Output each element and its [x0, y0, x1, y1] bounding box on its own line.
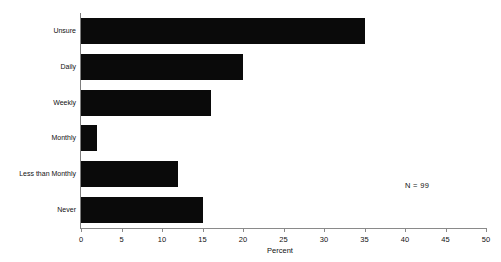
bar-never — [81, 197, 203, 223]
category-label-weekly: Weekly — [0, 98, 76, 107]
category-axis-labels: UnsureDailyWeeklyMonthlyLess than Monthl… — [0, 13, 76, 228]
x-axis-title-text: Percent — [267, 246, 293, 255]
x-tick-label-20: 20 — [228, 235, 258, 245]
x-tick-mark-15 — [203, 228, 204, 232]
x-tick-label-40: 40 — [390, 235, 420, 245]
category-label-less-than-monthly: Less than Monthly — [0, 169, 76, 178]
x-tick-mark-50 — [486, 228, 487, 232]
category-label-daily: Daily — [0, 62, 76, 71]
x-tick-mark-25 — [284, 228, 285, 232]
sample-size-annotation: N = 99 — [405, 181, 429, 190]
x-tick-label-45: 45 — [431, 235, 461, 245]
x-tick-label-30: 30 — [309, 235, 339, 245]
x-tick-mark-45 — [446, 228, 447, 232]
x-tick-label-50: 50 — [471, 235, 501, 245]
x-tick-label-10: 10 — [147, 235, 177, 245]
x-axis-title: Percent — [0, 246, 501, 255]
bar-row — [81, 197, 486, 223]
bar-row — [81, 125, 486, 151]
x-tick-mark-10 — [162, 228, 163, 232]
category-label-never: Never — [0, 205, 76, 214]
x-tick-mark-20 — [243, 228, 244, 232]
bar-row — [81, 90, 486, 116]
x-tick-mark-5 — [122, 228, 123, 232]
bar-chart-figure: UnsureDailyWeeklyMonthlyLess than Monthl… — [0, 0, 501, 262]
bar-weekly — [81, 90, 211, 116]
x-tick-label-0: 0 — [66, 235, 96, 245]
x-tick-mark-0 — [81, 228, 82, 232]
bar-row — [81, 54, 486, 80]
x-tick-mark-35 — [365, 228, 366, 232]
bar-monthly — [81, 125, 97, 151]
x-tick-mark-40 — [405, 228, 406, 232]
x-tick-mark-30 — [324, 228, 325, 232]
plot-area — [81, 13, 486, 228]
bar-daily — [81, 54, 243, 80]
bar-row — [81, 18, 486, 44]
bar-less-than-monthly — [81, 161, 178, 187]
category-label-unsure: Unsure — [0, 26, 76, 35]
bar-unsure — [81, 18, 365, 44]
x-tick-label-35: 35 — [350, 235, 380, 245]
x-tick-label-15: 15 — [188, 235, 218, 245]
x-tick-label-25: 25 — [269, 235, 299, 245]
x-tick-label-5: 5 — [107, 235, 137, 245]
category-label-monthly: Monthly — [0, 133, 76, 142]
